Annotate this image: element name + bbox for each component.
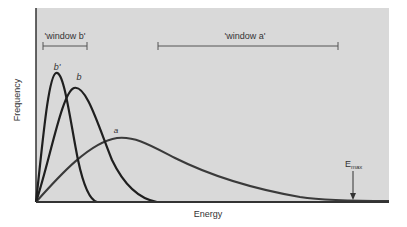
y-axis-label: Frequency bbox=[12, 78, 22, 121]
spectrum-diagram: 'window b' 'window a' b' b a Emax Energy… bbox=[0, 0, 407, 227]
curve-b-prime-label: b' bbox=[54, 62, 61, 72]
curve-b-label: b bbox=[76, 72, 81, 82]
window-b-label: 'window b' bbox=[45, 31, 86, 41]
x-axis-label: Energy bbox=[194, 209, 223, 219]
curve-a-label: a bbox=[114, 126, 119, 135]
window-a-label: 'window a' bbox=[225, 31, 266, 41]
plot-area bbox=[36, 8, 389, 202]
